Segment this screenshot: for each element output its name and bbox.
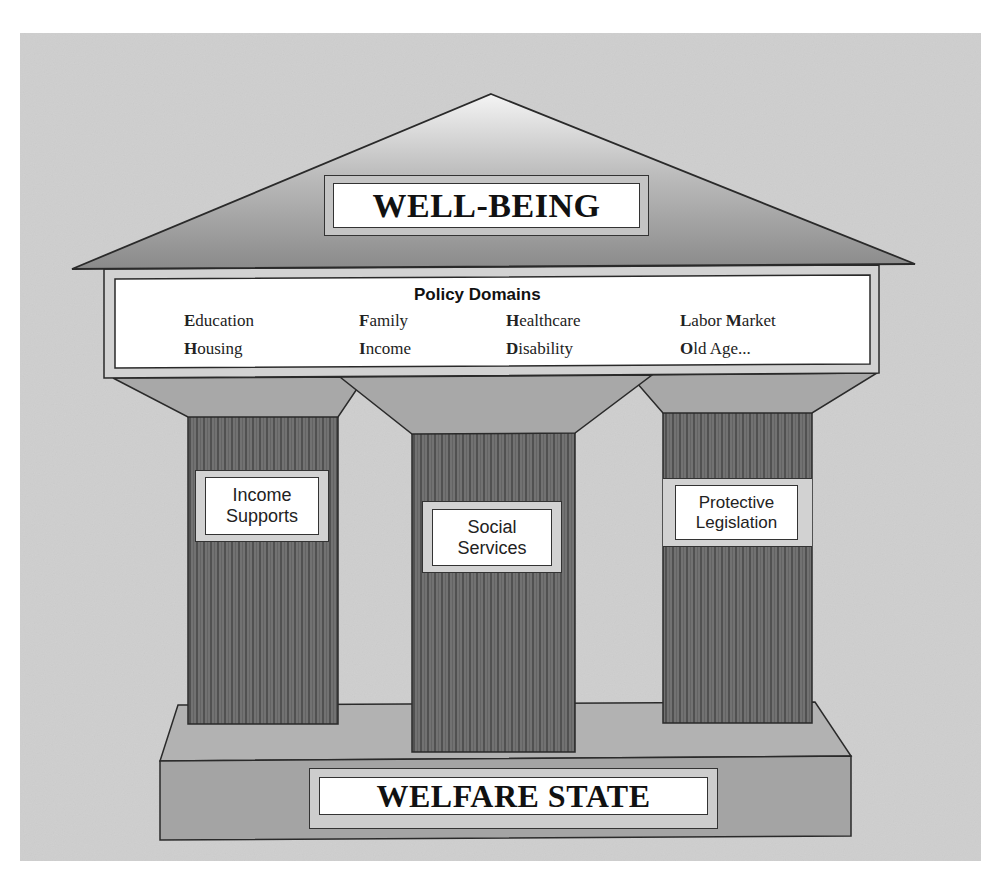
domain-disability: Disability xyxy=(506,339,573,359)
social-services-line2: Services xyxy=(457,538,526,559)
welfare-state-text: WELFARE STATE xyxy=(376,778,650,815)
pillar-right xyxy=(663,412,812,723)
domain-healthcare: Healthcare xyxy=(506,311,581,331)
protective-legislation-label: Protective Legislation xyxy=(675,485,798,540)
pillar-left xyxy=(188,415,338,724)
domain-education: Education xyxy=(184,311,254,331)
pillar-middle xyxy=(412,432,575,752)
welfare-state-label: WELFARE STATE xyxy=(319,777,708,815)
well-being-label: WELL-BEING xyxy=(333,183,640,228)
domain-housing: Housing xyxy=(184,339,243,359)
well-being-text: WELL-BEING xyxy=(373,187,601,225)
income-supports-line2: Supports xyxy=(226,506,298,527)
welfare-state-diagram: WELL-BEING Policy Domains Education Fami… xyxy=(0,0,1002,884)
domain-labor-market: Labor Market xyxy=(680,311,776,331)
social-services-line1: Social xyxy=(467,517,516,538)
domain-income: Income xyxy=(359,339,411,359)
diagram-graphics xyxy=(0,0,1002,884)
social-services-label: Social Services xyxy=(432,509,552,566)
protective-legislation-line2: Legislation xyxy=(696,513,777,533)
protective-legislation-line1: Protective xyxy=(699,493,775,513)
domain-old-age: Old Age... xyxy=(680,339,751,359)
policy-domains-heading: Policy Domains xyxy=(414,285,541,305)
income-supports-label: Income Supports xyxy=(205,477,319,535)
domain-family: Family xyxy=(359,311,408,331)
income-supports-line1: Income xyxy=(232,485,291,506)
